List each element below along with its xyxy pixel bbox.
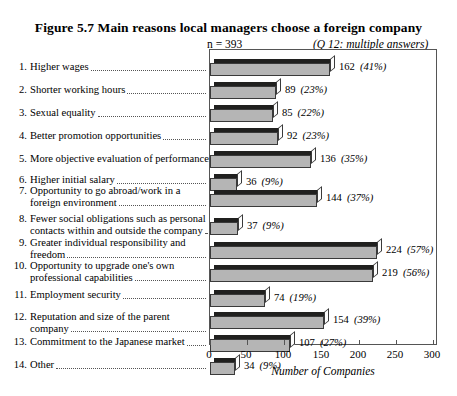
leader-dots	[135, 272, 206, 281]
x-axis-tick-label: 100	[263, 348, 303, 360]
category-text-wrapper: Greater individual responsibility andfre…	[30, 237, 207, 260]
leader-dots	[127, 85, 206, 94]
bar-percent-label: (57%)	[407, 244, 433, 255]
leader-dots	[205, 225, 207, 234]
bar-row	[210, 242, 389, 260]
category-label: 4.Better promotion opportunities	[12, 130, 207, 142]
bar-percent-label: (41%)	[360, 61, 386, 72]
category-text-line1: Higher wages	[30, 61, 89, 73]
category-label: 11.Employment security	[12, 289, 207, 301]
bar-value-number: 37	[247, 220, 258, 231]
bar-value-label: 74(19%)	[274, 292, 316, 303]
category-number: 6.	[12, 174, 27, 186]
category-text-line1: Reputation and size of the parent	[30, 311, 170, 323]
category-text-line1: Employment security	[30, 289, 121, 301]
bar-end-cap	[373, 261, 378, 278]
bar-row	[210, 190, 329, 208]
category-text-line2: contacts within and outside the company	[30, 225, 203, 237]
bar-row	[210, 218, 250, 236]
category-text-line1: Other	[30, 359, 54, 371]
x-axis-tick	[210, 340, 211, 345]
category-text-line1: Shorter working hours	[30, 84, 125, 96]
bar-value-label: 219(56%)	[382, 267, 429, 278]
category-text-wrapper: Commitment to the Japanese market	[30, 336, 207, 348]
bar-value-label: 162(41%)	[339, 61, 386, 72]
category-number: 11.	[12, 289, 27, 301]
category-label: 5.More objective evaluation of performan…	[12, 153, 207, 165]
bar-row	[210, 290, 277, 308]
bar-percent-label: (37%)	[347, 192, 373, 203]
leader-dots	[56, 360, 206, 369]
bar-value-label: 136(35%)	[320, 153, 367, 164]
bar-value-number: 224	[386, 244, 402, 255]
bar-row	[210, 59, 342, 77]
category-label: 9.Greater individual responsibility andf…	[12, 237, 207, 260]
x-axis-tick-label: 200	[338, 348, 378, 360]
category-number: 13.	[12, 336, 27, 348]
bar-front-face	[210, 86, 276, 99]
bar-end-cap	[276, 78, 281, 95]
bar-end-cap	[324, 308, 329, 325]
leader-dots	[91, 62, 206, 71]
bar-front-face	[210, 155, 311, 168]
category-number: 12.	[12, 311, 27, 323]
bar-percent-label: (27%)	[320, 337, 346, 348]
bar-end-cap	[273, 101, 278, 118]
bar-value-label: 224(57%)	[386, 244, 433, 255]
x-axis-tick-label: 50	[226, 348, 266, 360]
leader-dots	[123, 290, 206, 299]
category-text-wrapper: Higher initial salary	[30, 174, 207, 186]
x-axis-tick	[284, 340, 285, 345]
category-number: 9.	[12, 237, 27, 249]
bar-front-face	[210, 194, 317, 207]
x-axis-tick	[433, 340, 434, 345]
bar-row	[210, 151, 323, 169]
bar-value-number: 219	[382, 267, 398, 278]
bar-percent-label: (23%)	[303, 130, 329, 141]
category-text-wrapper: Shorter working hours	[30, 84, 207, 96]
category-label: 13.Commitment to the Japanese market	[12, 336, 207, 348]
bar-front-face	[210, 222, 238, 235]
category-number: 5.	[12, 153, 27, 165]
category-number: 8.	[12, 213, 27, 225]
category-number: 7.	[12, 185, 27, 197]
bar-value-label: 144(37%)	[326, 192, 373, 203]
x-axis-tick-label: 150	[301, 348, 341, 360]
bar-end-cap	[237, 170, 242, 187]
category-text-wrapper: Other	[30, 359, 207, 371]
bar-percent-label: (56%)	[403, 267, 429, 278]
category-text-wrapper: Reputation and size of the parentcompany	[30, 311, 207, 334]
bar-row	[210, 82, 288, 100]
bar-front-face	[210, 109, 273, 122]
bar-end-cap	[290, 331, 295, 348]
bar-value-number: 136	[320, 153, 336, 164]
category-text-line1: Opportunity to upgrade one's own	[30, 260, 174, 272]
bar-end-cap	[311, 147, 316, 164]
category-number: 10.	[12, 260, 27, 272]
category-text-line1: More objective evaluation of performance…	[30, 153, 212, 165]
bar-percent-label: (9%)	[263, 220, 284, 231]
category-label: 7.Opportunity to go abroad/work in afore…	[12, 185, 207, 208]
category-number: 1.	[12, 61, 27, 73]
leader-dots	[98, 108, 206, 117]
bar-percent-label: (9%)	[262, 176, 283, 187]
category-label: 3.Sexual equality	[12, 107, 207, 119]
x-axis-tick-label: 300	[412, 348, 452, 360]
category-number: 4.	[12, 130, 27, 142]
bar-value-number: 36	[246, 176, 257, 187]
category-text-line2: professional capabilities	[30, 272, 133, 284]
category-label-column: 1.Higher wages2.Shorter working hours3.S…	[0, 49, 209, 345]
category-text-line1: Greater individual responsibility and	[30, 237, 186, 249]
bar-end-cap	[278, 124, 283, 141]
bar-row	[210, 265, 385, 283]
category-text-wrapper: Opportunity to upgrade one's ownprofessi…	[30, 260, 207, 283]
chart-plot-area: 162(41%)89(23%)85(22%)92(23%)136(35%)36(…	[209, 49, 437, 345]
bar-percent-label: (39%)	[354, 314, 380, 325]
x-axis-tick	[322, 340, 323, 345]
x-axis-title: Number of Companies	[209, 365, 437, 377]
x-axis-tick	[396, 340, 397, 345]
category-text-wrapper: Employment security	[30, 289, 207, 301]
leader-dots	[187, 337, 206, 346]
bar-front-face	[210, 246, 377, 259]
category-number: 14.	[12, 359, 27, 371]
